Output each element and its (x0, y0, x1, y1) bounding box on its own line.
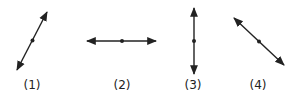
figure-label-2: (2) (114, 78, 131, 92)
figure-label-3: (3) (185, 78, 202, 92)
figure-label-4: (4) (250, 78, 267, 92)
lines-diagram: (1) (2) (3) (4) (0, 0, 300, 96)
point-3 (192, 39, 196, 43)
figure-4: (4) (234, 18, 284, 92)
figure-3: (3) (185, 8, 202, 92)
point-4 (257, 40, 261, 44)
figure-2: (2) (87, 39, 156, 92)
figure-label-1: (1) (24, 78, 41, 92)
point-1 (31, 39, 35, 43)
point-2 (120, 39, 124, 43)
figure-1: (1) (17, 12, 47, 92)
